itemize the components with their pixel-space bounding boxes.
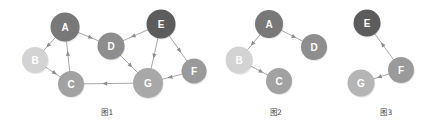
graph-node-F[interactable]: F [388, 57, 415, 84]
graph-node-G[interactable]: G [133, 68, 164, 99]
node-circle-A[interactable] [51, 13, 80, 42]
graph-edge-E-G [151, 37, 158, 70]
arrow-head-B-C [52, 70, 57, 74]
node-circle-D[interactable] [98, 33, 125, 60]
node-circle-D[interactable] [301, 34, 327, 60]
graph-node-C[interactable]: C [58, 71, 85, 98]
arrow-head-E-G [152, 53, 156, 58]
graph-edge-C-A [66, 40, 69, 73]
graph-node-E[interactable]: E [147, 10, 177, 40]
node-circle-E[interactable] [354, 10, 381, 37]
node-circle-F[interactable] [182, 59, 207, 84]
graph-canvas-fig1: ABCDEFG [0, 0, 215, 108]
graph-node-G[interactable]: G [348, 70, 376, 98]
graph-node-D[interactable]: D [301, 34, 328, 61]
graph-node-D[interactable]: D [98, 33, 126, 61]
graph-node-F[interactable]: F [182, 59, 208, 85]
figure-panel-fig3: EFG 图3 [337, 0, 436, 134]
graph-node-B[interactable]: B [226, 47, 254, 75]
figure-board: ABCDEFG 图1 ABCD 图2 EFG 图3 [0, 0, 436, 134]
graph-canvas-fig3: EFG [337, 0, 436, 108]
node-circle-B[interactable] [22, 47, 48, 73]
arrow-head-E-F [177, 47, 182, 52]
node-circle-A[interactable] [255, 10, 283, 38]
node-circle-B[interactable] [226, 47, 253, 74]
node-circle-G[interactable] [348, 70, 375, 97]
node-circle-C[interactable] [266, 68, 292, 94]
graph-canvas-fig2: ABCD [215, 0, 337, 108]
graph-edge-G-C [82, 83, 134, 84]
arrow-head-F-G [377, 74, 382, 78]
graph-edge-F-E [374, 33, 394, 61]
graph-edge-E-F [168, 35, 187, 62]
node-circle-F[interactable] [388, 57, 414, 83]
graph-node-A[interactable]: A [255, 10, 284, 39]
arrow-head-G-C [102, 81, 107, 85]
graph-edge-A-D [280, 30, 304, 42]
graph-node-B[interactable]: B [22, 47, 49, 74]
graph-node-E[interactable]: E [354, 10, 382, 38]
node-circle-G[interactable] [133, 68, 163, 98]
figure-panel-fig2: ABCD 图2 [215, 0, 337, 134]
figure-caption-fig2: 图2 [215, 106, 337, 117]
arrow-head-F-E [381, 42, 386, 47]
figure-panel-fig1: ABCDEFG 图1 [0, 0, 215, 134]
node-circle-C[interactable] [58, 71, 84, 97]
graph-edge-D-G [119, 54, 138, 73]
graph-edge-E-D [122, 29, 149, 41]
node-circle-E[interactable] [147, 10, 176, 39]
figure-caption-fig3: 图3 [337, 106, 436, 117]
figure-caption-fig1: 图1 [0, 106, 215, 117]
graph-node-C[interactable]: C [266, 68, 293, 95]
